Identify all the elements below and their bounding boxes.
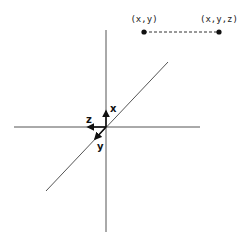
point-3d-dot (216, 29, 221, 34)
diagram-canvas: x z y (x,y) (x,y,z) (0, 0, 242, 242)
y-axis-label: y (97, 141, 104, 152)
x-axis-label: x (110, 103, 117, 114)
point-2d-dot (141, 29, 146, 34)
point-3d-label: (x,y,z) (200, 14, 238, 24)
y-arrow (95, 127, 106, 139)
axes-diagram: x z y (x,y) (x,y,z) (0, 0, 242, 242)
z-axis-label: z (86, 114, 92, 125)
point-2d-label: (x,y) (130, 14, 157, 24)
